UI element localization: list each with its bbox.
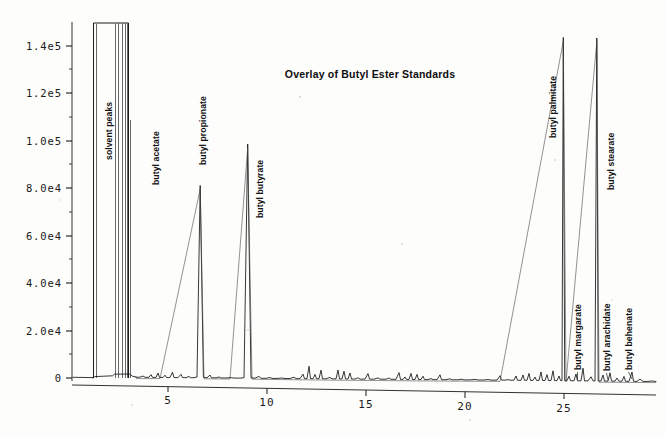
y-tick-label-40000: 4.0e4	[26, 277, 62, 289]
y-axis: 1.4e5 1.2e5 1.0e5 8.0e4 6.0e4 4.0e4 2.0e…	[26, 22, 72, 384]
clipped-solvent-region	[93, 23, 136, 378]
y-tick-label-20000: 2.0e4	[26, 325, 62, 337]
peak-label-butyl-propionate: butyl propionate	[198, 96, 208, 165]
y-tick-label-80000: 8.0e4	[26, 182, 62, 194]
y-tick-label-60000: 6.0e4	[26, 230, 62, 242]
x-tick-label-25: 25	[556, 402, 571, 415]
chromatogram-trace	[73, 38, 656, 383]
y-tick-label-140000: 1.4e5	[26, 40, 62, 52]
y-tick-label-0: 0	[55, 372, 62, 384]
chromatogram-figure: 1.4e5 1.2e5 1.0e5 8.0e4 6.0e4 4.0e4 2.0e…	[0, 0, 666, 437]
peak-label-butyl-arachidate: butyl arachidate	[602, 303, 612, 371]
y-tick-label-100000: 1.0e5	[26, 135, 62, 147]
chromatogram-plot: 1.4e5 1.2e5 1.0e5 8.0e4 6.0e4 4.0e4 2.0e…	[0, 0, 666, 437]
scan-speckles	[59, 96, 613, 421]
peak-label-butyl-butyrate: butyl butyrate	[255, 160, 265, 218]
chart-title: Overlay of Butyl Ester Standards	[285, 68, 455, 80]
x-tick-label-10: 10	[259, 396, 274, 409]
peak-annotations: solvent peaks butyl acetate butyl propio…	[104, 76, 634, 371]
peak-label-butyl-behenate: butyl behenate	[624, 308, 634, 370]
annotation-leader-lines	[578, 372, 633, 380]
peak-label-solvent-peaks: solvent peaks	[104, 102, 114, 160]
x-tick-label-20: 20	[457, 400, 472, 413]
peak-label-butyl-acetate: butyl acetate	[151, 131, 161, 185]
x-tick-label-15: 15	[358, 398, 373, 411]
x-tick-label-5: 5	[164, 394, 172, 407]
x-axis: 5 10 15 20 25	[72, 385, 656, 415]
peak-label-butyl-margarate: butyl margarate	[573, 304, 583, 370]
peak-label-butyl-stearate: butyl stearate	[606, 133, 616, 190]
y-tick-label-120000: 1.2e5	[26, 87, 62, 99]
peak-label-butyl-palmitate: butyl palmitate	[548, 76, 558, 138]
